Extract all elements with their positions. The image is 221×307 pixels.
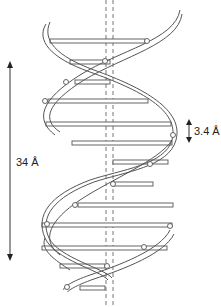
- full-turn-arrow: [7, 61, 13, 261]
- base-pair-spacing-label: 3.4 Å: [194, 126, 220, 137]
- base-pair-spacing-arrow: [186, 119, 192, 143]
- helix-axis: [106, 0, 113, 307]
- base-pairs: [42, 39, 173, 290]
- dna-helix-diagram: [0, 0, 221, 307]
- full-turn-label: 34 Å: [16, 157, 39, 168]
